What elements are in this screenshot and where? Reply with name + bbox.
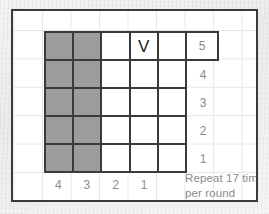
grid-cell-r2c3[interactable] (74, 117, 102, 145)
column-label-3: 3 (73, 175, 102, 195)
grid-cell-r2c2[interactable] (102, 117, 130, 145)
grid-cell-r1c1[interactable] (131, 145, 159, 173)
grid-cell-r5c2[interactable] (102, 33, 130, 61)
stitch-grid: V (44, 31, 187, 173)
grid-cell-r4c4[interactable] (46, 61, 74, 89)
column-label-blank (158, 175, 187, 195)
grid-cell-r1c0[interactable] (159, 145, 187, 173)
row-label-2: 2 (187, 117, 219, 145)
stitch-chart-frame: V 5 4 3 (11, 9, 258, 202)
grid-cell-r5c1[interactable]: V (131, 33, 159, 61)
grid-cell-r5c0[interactable] (159, 33, 187, 61)
grid-cell-r1c4[interactable] (46, 145, 74, 173)
row-label-5: 5 (187, 31, 219, 61)
grid-cell-r4c2[interactable] (102, 61, 130, 89)
screenshot-root: V 5 4 3 (0, 0, 269, 214)
column-label-2: 2 (101, 175, 130, 195)
column-label-row: 4 3 2 1 (44, 175, 187, 195)
grid-cell-r1c3[interactable] (74, 145, 102, 173)
grid-cell-r4c1[interactable] (131, 61, 159, 89)
row-label-3: 3 (187, 89, 219, 117)
grid-cell-r3c3[interactable] (74, 89, 102, 117)
grid-cell-r2c0[interactable] (159, 117, 187, 145)
row-label-4: 4 (187, 61, 219, 89)
cell-symbol-v: V (138, 38, 149, 55)
grid-cell-r3c0[interactable] (159, 89, 187, 117)
grid-cell-r4c0[interactable] (159, 61, 187, 89)
grid-cell-r3c4[interactable] (46, 89, 74, 117)
grid-cell-r2c1[interactable] (131, 117, 159, 145)
row-label-1: 1 (187, 145, 219, 173)
row-label-column: 4 3 2 1 (187, 61, 219, 173)
repeat-note-line-1: Repeat 17 times (185, 171, 258, 186)
repeat-note-line-2: per round (185, 186, 258, 201)
column-label-4: 4 (44, 175, 73, 195)
grid-cell-r2c4[interactable] (46, 117, 74, 145)
repeat-note: Repeat 17 times per round (185, 171, 258, 200)
column-label-1: 1 (130, 175, 159, 195)
grid-cell-r4c3[interactable] (74, 61, 102, 89)
grid-cell-r5c4[interactable] (46, 33, 74, 61)
grid-cell-r1c2[interactable] (102, 145, 130, 173)
grid-cell-r5c3[interactable] (74, 33, 102, 61)
grid-cell-r3c1[interactable] (131, 89, 159, 117)
grid-cell-r3c2[interactable] (102, 89, 130, 117)
